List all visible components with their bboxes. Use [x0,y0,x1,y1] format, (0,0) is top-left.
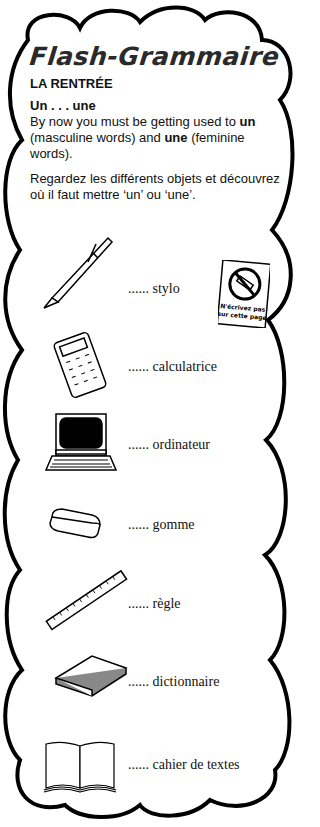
item-word: règle [153,596,181,611]
book-icon [52,652,128,698]
item-cahier-de-textes: ...... cahier de textes [128,757,240,773]
computer-icon [44,412,120,474]
intro-bold-une: une [164,130,187,145]
item-regle: ...... règle [128,596,180,612]
no-writing-icon: N'écrivez pas sur cette page [218,260,270,328]
blank-dots: ...... [128,517,149,532]
intro-text: Un . . . uneBy now you must be getting u… [30,98,280,212]
blank-dots: ...... [128,359,149,374]
section-subtitle: LA RENTRÉE [30,76,113,91]
eraser-icon [48,505,104,541]
blank-dots: ...... [128,596,149,611]
intro-text-part: By now you must be getting used to [30,114,240,129]
item-word: ordinateur [153,437,211,452]
calculator-icon [50,330,110,400]
blank-dots: ...... [128,674,149,689]
open-notebook-icon [42,738,118,794]
item-dictionnaire: ...... dictionnaire [128,674,219,690]
item-word: gomme [153,517,195,532]
item-ordinateur: ...... ordinateur [128,437,210,453]
blank-dots: ...... [128,757,149,772]
blank-dots: ...... [128,437,149,452]
item-word: stylo [153,281,180,296]
intro-heading: Un . . . une [30,98,280,114]
ruler-icon [42,565,132,637]
page-title: Flash-Grammaire [28,42,281,71]
intro-text-part: (masculine words) and [30,130,164,145]
intro-bold-un: un [240,114,256,129]
instruction-text: Regardez les différents objets et découv… [30,171,280,203]
blank-dots: ...... [128,281,149,296]
item-word: dictionnaire [153,674,220,689]
item-word: calculatrice [153,359,218,374]
pen-icon [38,232,114,312]
item-word: cahier de textes [153,757,240,772]
item-calculatrice: ...... calculatrice [128,359,217,375]
item-stylo: ...... stylo [128,281,180,297]
item-gomme: ...... gomme [128,517,195,533]
